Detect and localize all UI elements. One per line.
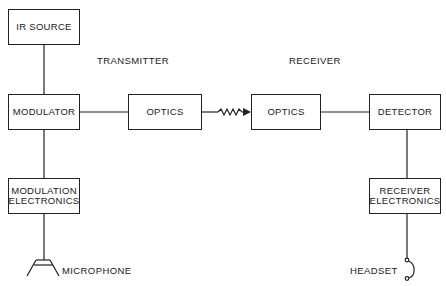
ir-source-block: IR SOURCE: [8, 9, 80, 45]
transmitter-section-label: TRANSMITTER: [97, 55, 169, 66]
receiver-electronics-block: RECEIVER ELECTRONICS: [369, 178, 441, 214]
headset-label: HEADSET: [350, 265, 398, 276]
headset-icon: [405, 258, 414, 280]
modulator-label: MODULATOR: [13, 107, 76, 117]
optics-transmitter-label: OPTICS: [146, 107, 183, 117]
optics-transmitter-block: OPTICS: [128, 94, 202, 130]
ir-source-label: IR SOURCE: [16, 22, 71, 32]
modulation-electronics-label-line2: ELECTRONICS: [9, 196, 80, 206]
detector-label: DETECTOR: [378, 107, 432, 117]
optics-receiver-block: OPTICS: [251, 94, 321, 130]
optics-receiver-label: OPTICS: [267, 107, 304, 117]
modulation-electronics-block: MODULATION ELECTRONICS: [8, 178, 80, 214]
modulator-block: MODULATOR: [8, 94, 80, 130]
microphone-icon: [27, 260, 59, 276]
microphone-label: MICROPHONE: [62, 265, 131, 276]
receiver-section-label: RECEIVER: [289, 55, 341, 66]
beam-arrowhead-icon: [243, 108, 251, 116]
detector-block: DETECTOR: [369, 94, 441, 130]
receiver-electronics-label-line2: ELECTRONICS: [370, 196, 441, 206]
